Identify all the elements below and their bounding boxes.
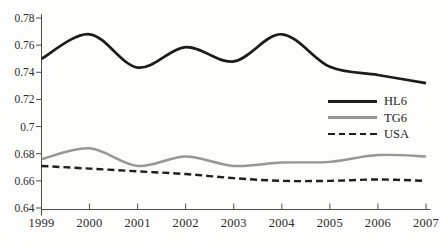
legend-item-hl6: HL6	[328, 93, 409, 109]
y-tick-label: 0.66	[14, 175, 34, 187]
legend-item-usa: USA	[328, 126, 409, 142]
usa-line-swatch	[328, 133, 377, 136]
x-tick-label: 2002	[173, 216, 199, 230]
series-line-usa	[42, 166, 427, 181]
legend-label-usa: USA	[384, 127, 409, 141]
legend-label-tg6: TG6	[384, 111, 407, 125]
y-tick-label: 0.76	[14, 39, 34, 51]
y-tick-label: 0.68	[14, 148, 34, 160]
legend-label-hl6: HL6	[384, 94, 407, 108]
x-tick-label: 2004	[269, 216, 296, 230]
legend-item-tg6: TG6	[328, 109, 409, 125]
x-tick-label: 2001	[125, 216, 151, 230]
y-tick-label: 0.72	[14, 93, 34, 105]
x-tick-label: 2000	[76, 216, 102, 230]
x-tick-label: 1999	[28, 216, 54, 230]
y-tick-label: 0.78	[14, 12, 34, 24]
x-tick-label: 2007	[413, 216, 439, 230]
hl6-line-swatch	[328, 100, 377, 103]
x-tick-label: 2006	[365, 216, 391, 230]
series-line-tg6	[42, 148, 427, 166]
tg6-line-swatch	[328, 116, 377, 118]
y-tick-label: 0.7	[20, 121, 35, 133]
y-tick-label: 0.74	[14, 66, 34, 78]
x-tick-label: 2003	[221, 216, 247, 230]
series-line-hl6	[42, 34, 427, 83]
x-tick-label: 2005	[317, 216, 343, 230]
y-tick-label: 0.64	[14, 202, 34, 214]
chart-figure: 0.780.760.740.720.70.680.660.64199920002…	[0, 0, 446, 249]
legend: HL6 TG6 USA	[328, 93, 409, 142]
